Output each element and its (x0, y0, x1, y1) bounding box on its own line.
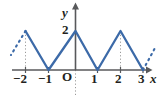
x-tick-label-1: 1 (91, 72, 98, 85)
y-axis-arrowhead (72, 3, 79, 10)
curve-left-continuation (11, 31, 26, 55)
x-tick-label-minus2: −2 (13, 72, 27, 85)
triangular-wave-curve (26, 31, 144, 70)
y-tick-label-2: 2 (62, 23, 69, 36)
origin-label: O (62, 70, 72, 83)
plot-canvas (0, 0, 161, 102)
x-axis-label: x (150, 72, 157, 85)
graph-figure: y x 2 O −2 −1 1 2 3 (0, 0, 161, 102)
x-tick-label-2: 2 (115, 72, 122, 85)
x-tick-label-minus1: −1 (38, 72, 52, 85)
x-tick-label-3: 3 (138, 72, 145, 85)
curve-right-continuation (143, 48, 155, 70)
y-axis-label: y (62, 6, 68, 19)
